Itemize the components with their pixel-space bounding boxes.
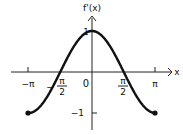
x-axis-label: x <box>174 67 180 77</box>
x-tick-label-half-pi-num: π <box>120 76 126 86</box>
x-tick-label-neg-half-pi-den: 2 <box>59 87 65 97</box>
y-axis-label: f'(x) <box>83 3 101 13</box>
x-tick-label-half-pi-den: 2 <box>120 87 126 97</box>
x-tick-label-neg-pi: −π <box>22 79 36 89</box>
cosine-plot: f'(x) x 1 −1 −π π 0 − π 2 π 2 <box>0 0 183 135</box>
x-tick-label-neg-half-pi-minus: − <box>46 82 54 92</box>
y-tick-label-one: 1 <box>83 28 88 37</box>
origin-label: 0 <box>83 78 89 89</box>
x-tick-label-pos-pi: π <box>152 79 158 89</box>
y-tick-label-neg-one: −1 <box>71 108 84 118</box>
x-tick-label-neg-half-pi-num: π <box>59 76 65 86</box>
endpoint-right <box>152 110 157 115</box>
endpoint-left <box>25 110 30 115</box>
